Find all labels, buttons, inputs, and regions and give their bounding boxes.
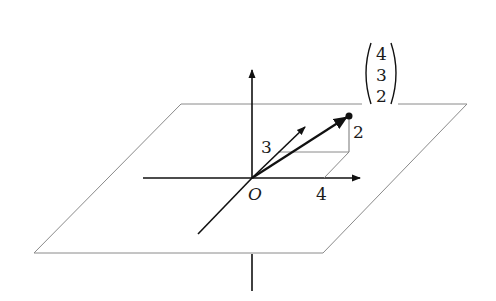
vector-tip-point (346, 113, 353, 120)
x-component-label: 4 (316, 184, 327, 204)
projection-diagonal-line (324, 152, 349, 178)
origin-label: O (248, 184, 262, 204)
y-component-label: 3 (261, 137, 272, 157)
column-vector-entry-2: 3 (376, 65, 387, 85)
vector-diagram: O 4 3 2 4 3 2 (0, 0, 496, 301)
y-axis (198, 178, 252, 234)
column-vector: 4 3 2 (366, 43, 396, 106)
right-paren (391, 43, 396, 104)
z-component-label: 2 (353, 122, 364, 142)
left-paren (366, 43, 371, 104)
column-vector-entry-1: 4 (376, 44, 387, 64)
column-vector-entry-3: 2 (376, 86, 387, 106)
